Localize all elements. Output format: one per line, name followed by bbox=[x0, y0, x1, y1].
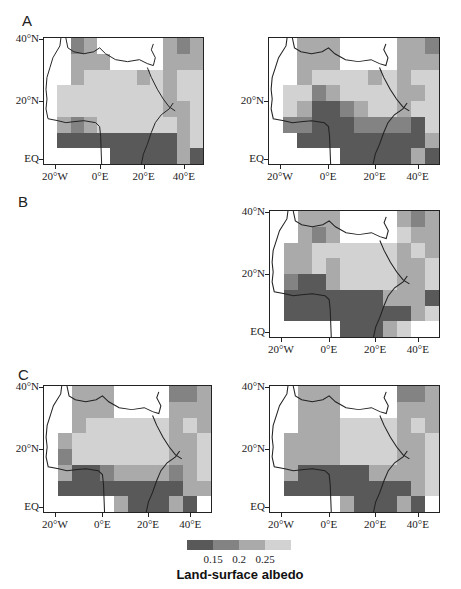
x-tick-mark bbox=[418, 165, 419, 169]
x-tick-mark bbox=[55, 513, 56, 517]
y-tick-label: 40°N bbox=[5, 380, 39, 392]
x-tick-mark bbox=[375, 513, 376, 517]
y-tick-mark bbox=[265, 274, 269, 275]
y-tick-label: 20°N bbox=[5, 442, 39, 454]
legend-title: Land-surface albedo bbox=[150, 567, 330, 582]
y-tick-mark bbox=[264, 101, 268, 102]
map-c-right bbox=[269, 385, 440, 513]
y-tick-mark bbox=[265, 387, 269, 388]
y-tick-label: 20°N bbox=[230, 94, 264, 106]
colorbar bbox=[187, 540, 291, 550]
x-tick-label: 0°E bbox=[311, 343, 347, 355]
x-tick-mark bbox=[190, 513, 191, 517]
y-tick-label: 40°N bbox=[5, 32, 39, 44]
x-tick-mark bbox=[329, 513, 330, 517]
x-tick-mark bbox=[144, 165, 145, 169]
y-tick-mark bbox=[265, 507, 269, 508]
x-tick-label: 40°E bbox=[400, 170, 436, 182]
x-tick-mark bbox=[184, 165, 185, 169]
x-tick-label: 20°W bbox=[262, 170, 298, 182]
x-tick-mark bbox=[148, 513, 149, 517]
y-tick-mark bbox=[39, 159, 43, 160]
x-tick-label: 20°E bbox=[357, 343, 393, 355]
y-tick-label: EQ bbox=[230, 152, 264, 164]
x-tick-mark bbox=[418, 338, 419, 342]
x-tick-label: 20°E bbox=[130, 518, 166, 530]
y-tick-label: 40°N bbox=[231, 205, 265, 217]
x-tick-mark bbox=[102, 513, 103, 517]
x-tick-label: 20°W bbox=[37, 518, 73, 530]
x-tick-mark bbox=[55, 165, 56, 169]
y-tick-mark bbox=[265, 212, 269, 213]
colorbar-swatch-4 bbox=[265, 540, 291, 550]
y-tick-label: 40°N bbox=[231, 380, 265, 392]
x-tick-label: 0°E bbox=[82, 170, 118, 182]
x-tick-label: 40°E bbox=[172, 518, 208, 530]
x-tick-label: 20°W bbox=[37, 170, 73, 182]
coastline bbox=[44, 38, 203, 164]
y-tick-mark bbox=[264, 159, 268, 160]
x-tick-label: 20°E bbox=[357, 170, 393, 182]
colorbar-swatch-1 bbox=[187, 540, 213, 550]
y-tick-mark bbox=[39, 449, 43, 450]
coastline bbox=[44, 386, 211, 512]
y-tick-label: EQ bbox=[231, 500, 265, 512]
y-tick-mark bbox=[265, 449, 269, 450]
panel-letter-a: A bbox=[22, 12, 32, 29]
x-tick-label: 40°E bbox=[400, 518, 436, 530]
x-tick-label: 0°E bbox=[310, 170, 346, 182]
x-tick-mark bbox=[375, 165, 376, 169]
x-tick-label: 20°W bbox=[263, 518, 299, 530]
y-tick-mark bbox=[39, 39, 43, 40]
x-tick-label: 40°E bbox=[166, 170, 202, 182]
map-b bbox=[269, 210, 440, 338]
colorbar-swatch-3 bbox=[239, 540, 265, 550]
map-a-right bbox=[268, 37, 440, 165]
y-tick-label: 20°N bbox=[231, 442, 265, 454]
coastline bbox=[270, 386, 439, 512]
map-a-left bbox=[43, 37, 204, 165]
y-tick-label: EQ bbox=[5, 500, 39, 512]
y-tick-mark bbox=[39, 101, 43, 102]
x-tick-mark bbox=[281, 513, 282, 517]
y-tick-label: 20°N bbox=[5, 94, 39, 106]
coastline bbox=[270, 211, 439, 337]
y-tick-mark bbox=[39, 507, 43, 508]
colorbar-tick-0-25: 0.25 bbox=[250, 553, 280, 565]
y-tick-mark bbox=[265, 332, 269, 333]
x-tick-label: 0°E bbox=[84, 518, 120, 530]
map-c-left bbox=[43, 385, 212, 513]
x-tick-mark bbox=[418, 513, 419, 517]
x-tick-mark bbox=[280, 165, 281, 169]
x-tick-mark bbox=[329, 338, 330, 342]
x-tick-mark bbox=[281, 338, 282, 342]
x-tick-label: 20°E bbox=[357, 518, 393, 530]
x-tick-mark bbox=[328, 165, 329, 169]
x-tick-label: 0°E bbox=[311, 518, 347, 530]
x-tick-label: 20°W bbox=[263, 343, 299, 355]
y-tick-label: EQ bbox=[5, 152, 39, 164]
x-tick-label: 20°E bbox=[126, 170, 162, 182]
y-tick-label: 20°N bbox=[231, 267, 265, 279]
x-tick-mark bbox=[375, 338, 376, 342]
coastline bbox=[269, 38, 439, 164]
colorbar-swatch-2 bbox=[213, 540, 239, 550]
y-tick-mark bbox=[39, 387, 43, 388]
x-tick-label: 40°E bbox=[400, 343, 436, 355]
y-tick-label: EQ bbox=[231, 325, 265, 337]
panel-letter-b: B bbox=[18, 193, 28, 210]
x-tick-mark bbox=[100, 165, 101, 169]
